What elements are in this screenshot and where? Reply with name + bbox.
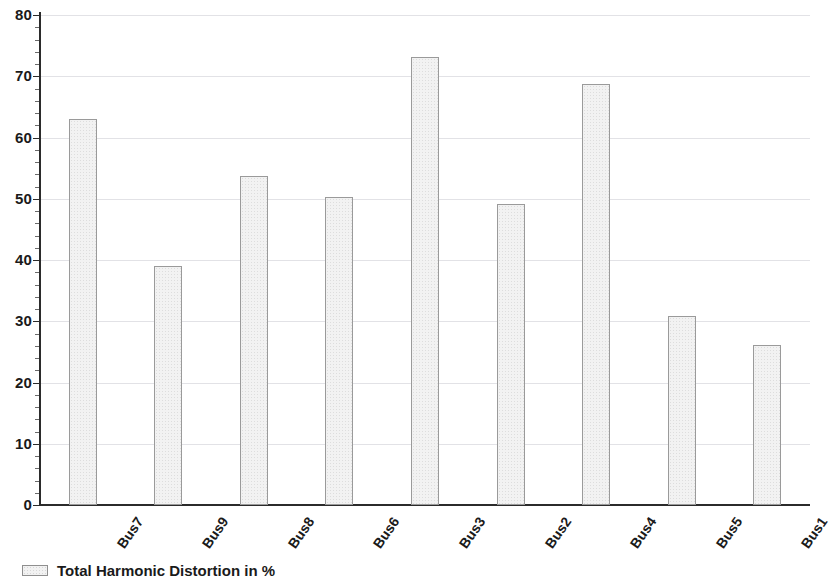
x-axis-tick-label: Bus8	[284, 514, 317, 551]
y-axis-tick-label: 60	[15, 129, 32, 146]
y-axis-tick-label: 0	[23, 496, 32, 513]
bar	[411, 57, 439, 505]
chart-legend: Total Harmonic Distortion in %	[22, 562, 275, 579]
bar	[497, 204, 525, 505]
bar	[154, 266, 182, 505]
legend-entry-label: Total Harmonic Distortion in %	[57, 562, 275, 579]
x-axis-tick-label: Bus5	[712, 514, 745, 551]
x-axis-tick-label: Bus3	[456, 514, 489, 551]
x-axis-tick-label: Bus6	[370, 514, 403, 551]
y-axis-tick-label: 40	[15, 251, 32, 268]
legend-swatch-icon	[22, 565, 48, 576]
x-axis-tick-label: Bus9	[199, 514, 232, 551]
plot-area	[40, 15, 810, 505]
bar	[753, 345, 781, 505]
bar	[69, 119, 97, 505]
y-axis-tick-label: 50	[15, 190, 32, 207]
bar	[668, 316, 696, 505]
x-axis-labels: Bus7Bus9Bus8Bus6Bus3Bus2Bus4Bus5Bus1	[40, 506, 810, 566]
x-axis-tick-label: Bus1	[798, 514, 831, 551]
bar	[240, 176, 268, 505]
bar	[325, 197, 353, 505]
y-axis-tick-label: 70	[15, 67, 32, 84]
x-axis-tick-label: Bus7	[113, 514, 146, 551]
x-axis-tick-label: Bus4	[627, 514, 660, 551]
bar	[582, 84, 610, 505]
x-axis-tick-label: Bus2	[541, 514, 574, 551]
y-axis-tick-label: 20	[15, 374, 32, 391]
y-axis-tick-label: 10	[15, 435, 32, 452]
y-axis-tick-label: 80	[15, 6, 32, 23]
y-axis-tick-label: 30	[15, 312, 32, 329]
